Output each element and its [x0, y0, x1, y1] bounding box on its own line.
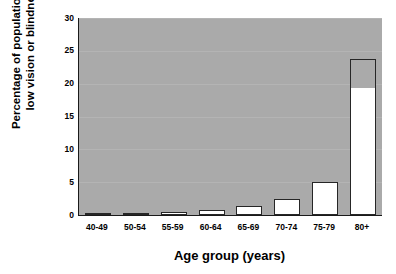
- x-axis-tick-labels: 40-4950-5455-5960-6465-6970-7475-7980+: [78, 222, 381, 236]
- bar[interactable]: [274, 199, 300, 215]
- y-axis-title-lines: Percentage of population with low vision…: [9, 0, 37, 129]
- bar[interactable]: [312, 182, 338, 215]
- y-axis-title: Percentage of population with low vision…: [6, 0, 40, 147]
- bar-slot: [79, 18, 117, 215]
- x-axis-tick-label: 70-74: [267, 222, 305, 236]
- bar[interactable]: [199, 210, 225, 215]
- bar[interactable]: [85, 213, 111, 216]
- bar-slot: [155, 18, 193, 215]
- x-axis-tick-label: 50-54: [116, 222, 154, 236]
- plot-area: [78, 18, 382, 216]
- y-axis-tick-labels: 051015202530: [44, 0, 74, 274]
- bar[interactable]: [123, 213, 149, 216]
- y-axis-tick-label: 5: [46, 178, 74, 187]
- x-axis-tick-label: 55-59: [154, 222, 192, 236]
- bar-series: [79, 18, 382, 215]
- bar[interactable]: [161, 212, 187, 215]
- bar-slot: [268, 18, 306, 215]
- x-axis-tick-label: 75-79: [305, 222, 343, 236]
- bar-slot: [306, 18, 344, 215]
- x-axis-tick-label: 40-49: [78, 222, 116, 236]
- bar-slot: [344, 18, 382, 215]
- bar-slot: [117, 18, 155, 215]
- y-axis-tick-label: 0: [46, 211, 74, 220]
- y-axis-tick-label: 15: [46, 112, 74, 121]
- y-axis-tick-label: 30: [46, 14, 74, 23]
- y-axis-tick-label: 10: [46, 145, 74, 154]
- bar[interactable]: [350, 59, 376, 215]
- bar-upper-segment: [351, 60, 375, 88]
- y-axis-tick-label: 20: [46, 79, 74, 88]
- x-axis-tick-label: 65-69: [230, 222, 268, 236]
- y-axis-tick-label: 25: [46, 46, 74, 55]
- bar[interactable]: [236, 206, 262, 215]
- x-axis-title: Age group (years): [78, 248, 381, 263]
- bar-slot: [193, 18, 231, 215]
- x-axis-tick-label: 60-64: [192, 222, 230, 236]
- y-axis-title-line-1: Percentage of population with: [9, 0, 23, 129]
- y-axis-title-line-2: low vision or blindness: [23, 0, 37, 111]
- x-axis-tick-label: 80+: [343, 222, 381, 236]
- chart-figure: Percentage of population with low vision…: [0, 0, 396, 274]
- bar-slot: [231, 18, 269, 215]
